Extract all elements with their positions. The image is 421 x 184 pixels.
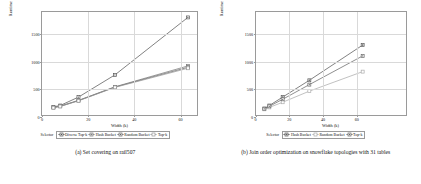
- data-point-marker: [59, 105, 62, 108]
- series-line: [53, 66, 187, 107]
- legend-marker-icon: [150, 132, 157, 137]
- x-axis-label-a: Width (k): [41, 123, 198, 128]
- data-point-marker: [361, 70, 364, 73]
- legend-entry[interactable]: Hash Bucket: [283, 132, 312, 137]
- y-tick-mark: [254, 89, 256, 90]
- y-tick-label: 1000: [245, 59, 253, 64]
- y-tick-label: 1000: [31, 59, 39, 64]
- y-tick-label: 0: [251, 115, 253, 120]
- plot-area-a: 0500100015000204060: [41, 11, 198, 116]
- chart-b: Runtime (ms) 0500100015000204060 Width (…: [211, 0, 421, 148]
- legend-label: Diverse Top-k: [65, 133, 89, 137]
- caption-a: (a) Set covering on rail507: [6, 149, 205, 157]
- y-tick-label: 0: [37, 115, 39, 120]
- legend-entry[interactable]: Diverse Top-k: [58, 132, 89, 137]
- x-tick-label: 20: [287, 117, 291, 122]
- legend-marker-icon: [88, 132, 95, 137]
- series-lines-a: [42, 12, 197, 115]
- y-tick-label: 1500: [31, 32, 39, 37]
- legend-box: Hash BucketRandom BucketTop-k: [282, 131, 366, 139]
- x-tick-mark: [42, 115, 43, 117]
- figure-row: Runtime (ms) 0500100015000204060 Width (…: [0, 0, 421, 184]
- data-point-marker: [186, 16, 189, 19]
- gridline-horizontal: [256, 34, 406, 35]
- x-tick-label: 60: [178, 117, 182, 122]
- plot-area-b: 0500100015000204060: [255, 11, 407, 116]
- y-axis-label-a: Runtime (ms): [8, 0, 13, 34]
- data-point-marker: [267, 105, 270, 108]
- x-tick-label: 60: [355, 117, 359, 122]
- data-point-marker: [77, 96, 80, 99]
- gridline-vertical: [181, 12, 182, 115]
- caption-b: (b) Join order optimization on snowflake…: [225, 149, 408, 157]
- series-line: [264, 56, 362, 109]
- legend-box: Diverse Top-kHash BucketRandom BucketTop…: [56, 131, 170, 139]
- legend-entry[interactable]: Random Bucket: [117, 132, 151, 137]
- series-lines-b: [256, 12, 406, 115]
- y-tick-label: 500: [33, 87, 39, 92]
- legend-marker-icon: [117, 132, 124, 137]
- gridline-horizontal: [42, 89, 197, 90]
- x-tick-label: 40: [132, 117, 136, 122]
- legend-a: Selector Diverse Top-kHash BucketRandom …: [0, 131, 211, 139]
- data-point-marker: [113, 73, 116, 76]
- legend-marker-icon: [58, 132, 65, 137]
- legend-label: Random Bucket: [124, 133, 151, 137]
- legend-label: Top-k: [353, 133, 364, 137]
- legend-b: Selector Hash BucketRandom BucketTop-k: [211, 131, 421, 139]
- gridline-horizontal: [256, 62, 406, 63]
- legend-entry[interactable]: Random Bucket: [312, 132, 346, 137]
- y-axis-label-b: Runtime (ms): [219, 0, 224, 34]
- legend-marker-icon: [283, 132, 290, 137]
- data-point-marker: [186, 67, 189, 70]
- data-point-marker: [281, 101, 284, 104]
- subfigure-b: Runtime (ms) 0500100015000204060 Width (…: [211, 0, 421, 184]
- x-tick-mark: [181, 115, 182, 117]
- data-point-marker: [281, 98, 284, 101]
- y-tick-mark: [254, 62, 256, 63]
- gridline-horizontal: [42, 62, 197, 63]
- legend-marker-icon: [312, 132, 319, 137]
- chart-a: Runtime (ms) 0500100015000204060 Width (…: [0, 0, 211, 148]
- data-point-marker: [307, 90, 310, 93]
- data-point-marker: [307, 79, 310, 82]
- gridline-horizontal: [42, 34, 197, 35]
- legend-entry[interactable]: Hash Bucket: [88, 132, 117, 137]
- legend-label: Top-k: [157, 133, 168, 137]
- gridline-vertical: [357, 12, 358, 115]
- data-point-marker: [52, 106, 55, 109]
- legend-label: Hash Bucket: [95, 133, 117, 137]
- legend-label: Random Bucket: [319, 133, 346, 137]
- x-tick-mark: [289, 115, 290, 117]
- data-point-marker: [262, 107, 265, 110]
- legend-entry[interactable]: Top-k: [150, 132, 168, 137]
- subfigure-a: Runtime (ms) 0500100015000204060 Width (…: [0, 0, 211, 184]
- x-tick-mark: [88, 115, 89, 117]
- y-tick-label: 1500: [245, 32, 253, 37]
- gridline-vertical: [323, 12, 324, 115]
- x-axis-label-b: Width (k): [255, 123, 407, 128]
- gridline-vertical: [289, 12, 290, 115]
- x-tick-mark: [256, 115, 257, 117]
- x-tick-label: 40: [321, 117, 325, 122]
- y-tick-label: 500: [247, 87, 253, 92]
- data-point-marker: [361, 44, 364, 47]
- y-tick-mark: [40, 34, 42, 35]
- x-tick-mark: [134, 115, 135, 117]
- y-tick-mark: [254, 34, 256, 35]
- gridline-vertical: [134, 12, 135, 115]
- data-point-marker: [77, 99, 80, 102]
- x-tick-mark: [357, 115, 358, 117]
- legend-marker-icon: [346, 132, 353, 137]
- y-tick-mark: [40, 62, 42, 63]
- y-tick-mark: [40, 89, 42, 90]
- legend-entry[interactable]: Top-k: [346, 132, 364, 137]
- x-tick-label: 0: [41, 117, 43, 122]
- data-point-marker: [361, 54, 364, 57]
- legend-title-b: Selector: [266, 133, 279, 137]
- x-tick-mark: [323, 115, 324, 117]
- gridline-horizontal: [256, 89, 406, 90]
- x-tick-label: 0: [254, 117, 256, 122]
- legend-label: Hash Bucket: [290, 133, 312, 137]
- data-point-marker: [307, 83, 310, 86]
